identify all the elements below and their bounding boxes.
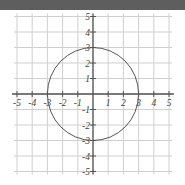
x-tick-label: -4 [28, 98, 36, 108]
y-tick-label: -2 [82, 121, 90, 131]
x-tick-label: 2 [121, 98, 126, 108]
y-tick-label: -5 [82, 167, 90, 177]
y-tick-label: -1 [82, 105, 90, 115]
y-tick-label: -4 [82, 152, 90, 162]
y-tick-label: 4 [85, 28, 90, 38]
x-tick-label: -1 [74, 98, 82, 108]
y-tick-label: 5 [85, 12, 90, 22]
y-tick-label: 1 [85, 74, 90, 84]
y-tick-label: -3 [82, 136, 90, 146]
x-tick-label: 4 [151, 98, 156, 108]
coordinate-plane: -5-4-3-2-11234554321-1-2-3-4-5 [0, 0, 185, 185]
x-tick-label: 5 [167, 98, 172, 108]
y-tick-label: 2 [85, 59, 90, 69]
x-tick-label: -2 [59, 98, 67, 108]
x-tick-label: -5 [13, 98, 21, 108]
x-tick-label: 1 [106, 98, 111, 108]
